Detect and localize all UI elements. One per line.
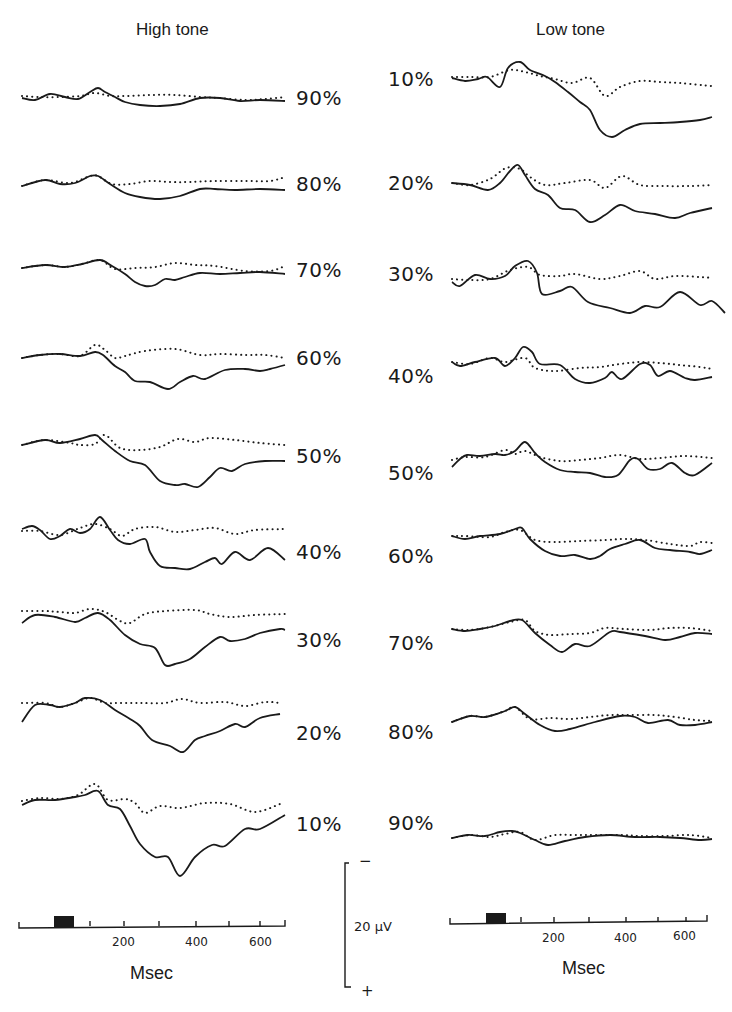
low-tone-row-60pct [452, 527, 712, 559]
dotted-trace [452, 167, 712, 188]
solid-trace [22, 88, 285, 106]
solid-trace [452, 347, 712, 383]
high-tone-row-label: 40% [296, 540, 342, 564]
solid-trace [452, 707, 712, 731]
dotted-trace [452, 450, 712, 461]
right-axis-title: Msec [562, 958, 605, 979]
low-tone-row-80pct [452, 707, 712, 731]
scale-positive-sign: + [361, 982, 374, 1000]
low-tone-row-90pct [452, 831, 712, 845]
right-tick-600: 600 [673, 929, 696, 943]
dotted-trace [452, 530, 712, 546]
right-stimulus-marker [486, 913, 506, 923]
solid-trace [452, 527, 712, 559]
solid-trace [22, 613, 285, 666]
low-tone-traces [452, 62, 725, 845]
high-tone-row-label: 70% [296, 258, 342, 282]
dotted-trace [452, 70, 712, 96]
dotted-trace [22, 609, 285, 623]
scale-value-label: 20 μV [354, 919, 392, 934]
dotted-trace [22, 698, 280, 707]
high-tone-row-label: 90% [296, 86, 342, 110]
solid-trace [22, 517, 285, 569]
high-tone-row-80pct [22, 175, 285, 199]
left-tick-600: 600 [249, 935, 272, 949]
low-tone-row-30pct [452, 261, 725, 313]
low-tone-row-label: 80% [388, 720, 434, 744]
solid-trace [452, 442, 712, 477]
dotted-trace [452, 832, 712, 840]
solid-trace [22, 175, 285, 199]
solid-trace [22, 260, 285, 286]
high-tone-row-label: 60% [296, 346, 342, 370]
low-tone-row-40pct [452, 347, 712, 383]
low-tone-row-label: 70% [388, 631, 434, 655]
left-axis-title: Msec [130, 963, 173, 984]
low-tone-row-10pct [452, 62, 712, 137]
solid-trace [22, 352, 285, 389]
high-tone-row-label: 80% [296, 172, 342, 196]
solid-trace [22, 791, 285, 876]
high-tone-row-20pct [22, 698, 280, 752]
solid-trace [452, 165, 712, 222]
high-tone-row-label: 50% [296, 444, 342, 468]
high-tone-row-90pct [22, 88, 285, 106]
low-tone-row-label: 10% [388, 67, 434, 91]
dotted-trace [22, 260, 285, 272]
high-tone-row-50pct [22, 435, 285, 487]
high-tone-traces [22, 88, 285, 876]
low-tone-row-label: 50% [388, 461, 434, 485]
low-tone-row-label: 40% [388, 364, 434, 388]
amplitude-scale-bracket [345, 863, 351, 987]
high-tone-row-30pct [22, 609, 285, 666]
high-tone-row-70pct [22, 260, 285, 286]
low-tone-row-70pct [452, 619, 712, 652]
dotted-trace [452, 707, 712, 722]
dotted-trace [452, 358, 712, 371]
solid-trace [452, 261, 725, 313]
high-tone-row-label: 10% [296, 812, 342, 836]
low-tone-row-50pct [452, 442, 712, 477]
low-tone-row-label: 20% [388, 171, 434, 195]
low-tone-row-label: 30% [388, 262, 434, 286]
dotted-trace [22, 345, 285, 358]
right-tick-400: 400 [614, 931, 637, 945]
solid-trace [452, 62, 712, 137]
low-tone-row-label: 90% [388, 811, 434, 835]
high-tone-row-10pct [22, 784, 285, 876]
left-tick-400: 400 [185, 935, 208, 949]
low-tone-row-label: 60% [388, 544, 434, 568]
scale-negative-sign: − [359, 852, 372, 870]
left-tick-200: 200 [112, 935, 135, 949]
high-tone-row-60pct [22, 345, 285, 389]
left-stimulus-marker [54, 916, 74, 927]
solid-trace [22, 435, 285, 487]
low-tone-row-20pct [452, 165, 712, 222]
solid-trace [452, 619, 712, 652]
right-tick-200: 200 [542, 931, 565, 945]
high-tone-row-label: 30% [296, 628, 342, 652]
high-tone-row-label: 20% [296, 721, 342, 745]
solid-trace [452, 831, 712, 845]
high-tone-row-40pct [22, 517, 285, 569]
